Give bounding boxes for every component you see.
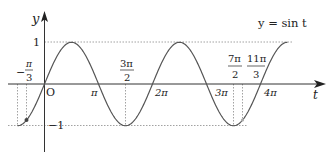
frac-den: 2 — [124, 72, 130, 83]
frac-num: 7π — [228, 53, 241, 64]
frac-num: π — [25, 59, 33, 69]
x-axis-label: t — [313, 88, 318, 102]
x-tick-3pi: 3π — [215, 87, 228, 98]
x-tick-2pi: 2π — [154, 87, 168, 98]
y-tick-1: 1 — [33, 36, 40, 49]
frac-den: 3 — [253, 69, 259, 80]
frac-num: 11π — [247, 53, 267, 64]
sine-chart: y t y = sin t O 1 −1 π 2π 3π 4π − π 3 3π… — [0, 0, 335, 159]
x-tick-4pi: 4π — [263, 87, 277, 98]
point-11pi-3 — [241, 118, 244, 121]
point-neg-pi-3 — [25, 118, 29, 122]
y-tick-neg1: −1 — [48, 119, 64, 132]
title-label: y = sin t — [257, 16, 307, 30]
frac-neg-pi-3: − π 3 — [16, 59, 33, 83]
x-tick-pi: π — [90, 87, 98, 98]
neg-sign: − — [16, 66, 25, 79]
frac-num: 3π — [120, 58, 133, 69]
frac-7pi-2: 7π 2 — [228, 53, 242, 80]
frac-den: 3 — [26, 72, 32, 83]
frac-den: 2 — [232, 69, 238, 80]
y-axis-label: y — [31, 11, 40, 26]
frac-3pi-2: 3π 2 — [120, 58, 134, 83]
origin-label: O — [46, 86, 55, 99]
